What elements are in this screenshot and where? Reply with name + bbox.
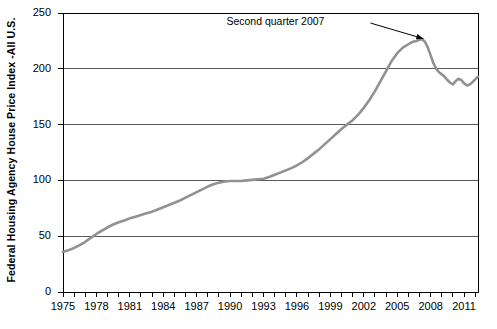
plot-frame: [63, 13, 478, 292]
y-tick-label: 0: [15, 286, 51, 297]
y-tick-label: 200: [15, 63, 51, 74]
x-tick-label: 2011: [442, 301, 486, 312]
gridlines: [63, 13, 478, 236]
y-axis-title: Federal Housing Agency House Price Index…: [5, 18, 17, 283]
chart-plot-area: [0, 0, 497, 329]
y-tick-label: 250: [15, 7, 51, 18]
axis-ticks: [58, 13, 475, 297]
data-series-line: [63, 39, 478, 252]
y-tick-label: 50: [15, 230, 51, 241]
y-tick-label: 150: [15, 119, 51, 130]
annotation-arrow: [370, 23, 423, 39]
y-axis-title-container: Federal Housing Agency House Price Index…: [2, 0, 20, 300]
y-tick-label: 100: [15, 174, 51, 185]
annotation-label: Second quarter 2007: [226, 15, 324, 27]
chart-figure: Federal Housing Agency House Price Index…: [0, 0, 497, 329]
